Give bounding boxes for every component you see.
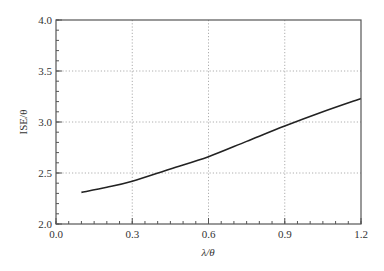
y-tick-label: 4.0: [38, 14, 52, 26]
y-tick-label: 3.5: [38, 65, 52, 77]
y-axis-label: ISE/θ: [17, 110, 29, 135]
y-axis-tick-labels: 2.02.53.03.54.0: [38, 14, 52, 230]
x-tick-label: 1.2: [354, 228, 368, 240]
line-chart: 0.00.30.60.91.2 2.02.53.03.54.0 λ/θ ISE/…: [0, 0, 384, 271]
x-tick-label: 0.6: [202, 228, 216, 240]
x-axis-tick-labels: 0.00.30.60.91.2: [49, 228, 368, 240]
y-tick-label: 3.0: [38, 116, 52, 128]
data-series: [81, 99, 361, 193]
series-line: [81, 99, 361, 193]
y-tick-label: 2.5: [38, 167, 52, 179]
x-tick-label: 0.3: [125, 228, 139, 240]
grid-lines: [56, 20, 361, 224]
y-tick-label: 2.0: [38, 218, 52, 230]
x-axis-label: λ/θ: [200, 246, 215, 258]
x-tick-label: 0.9: [278, 228, 292, 240]
